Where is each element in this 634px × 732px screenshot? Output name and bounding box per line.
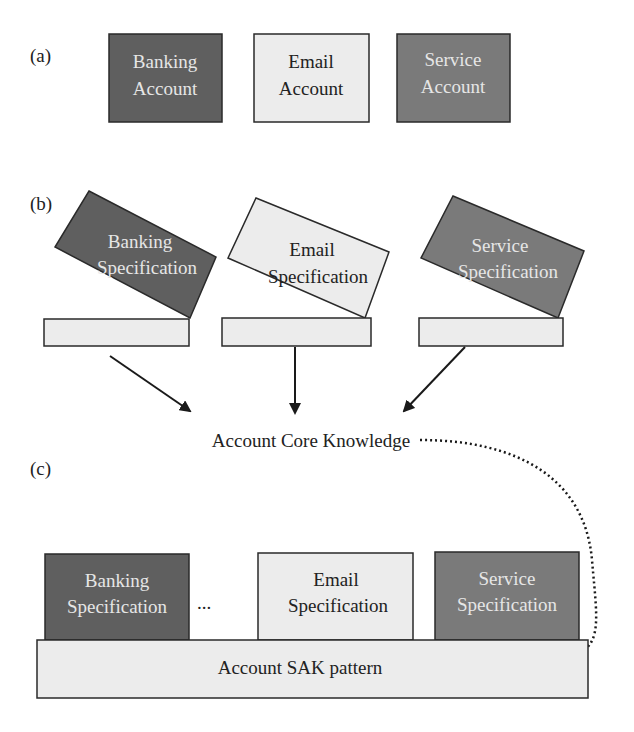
service-spec-c-line2: Specification xyxy=(457,594,558,615)
diagram-canvas: (a) Banking Account Email Account Servic… xyxy=(0,0,634,732)
banking-account-line1: Banking xyxy=(133,51,198,72)
banking-spec-b-line2: Specification xyxy=(97,257,198,278)
banking-base-plate xyxy=(44,319,189,346)
service-account-line2: Account xyxy=(421,76,486,97)
email-spec-c-line2: Specification xyxy=(288,595,389,616)
banking-specification-box: Banking Specification xyxy=(45,554,189,640)
service-account-box: Service Account xyxy=(397,34,510,122)
service-spec-b-line1: Service xyxy=(472,235,529,256)
service-spec-b-line2: Specification xyxy=(458,261,559,282)
banking-account-box: Banking Account xyxy=(109,34,222,122)
account-core-knowledge-label: Account Core Knowledge xyxy=(212,430,410,451)
email-spec-c-line1: Email xyxy=(313,569,358,590)
service-base-plate xyxy=(419,318,563,346)
arrow-service-to-core xyxy=(404,347,465,411)
account-sak-pattern-base: Account SAK pattern xyxy=(37,640,588,698)
email-account-line2: Account xyxy=(279,78,344,99)
email-base-plate xyxy=(222,318,371,346)
service-specification-box: Service Specification xyxy=(435,552,579,640)
panel-b-label: (b) xyxy=(30,193,52,215)
service-specification-tilted-box: Service Specification xyxy=(421,196,584,318)
panel-a-label: (a) xyxy=(30,45,51,67)
service-spec-c-line1: Service xyxy=(479,568,536,589)
email-account-box: Email Account xyxy=(254,34,369,122)
email-specification-tilted-box: Email Specification xyxy=(228,198,389,318)
banking-spec-c-line2: Specification xyxy=(67,596,168,617)
banking-specification-tilted-box: Banking Specification xyxy=(55,191,216,318)
email-spec-b-line2: Specification xyxy=(268,266,369,287)
banking-spec-b-line1: Banking xyxy=(108,231,173,252)
panel-c-label: (c) xyxy=(30,458,51,480)
email-spec-b-line1: Email xyxy=(289,239,334,260)
arrow-banking-to-core xyxy=(110,356,190,411)
service-account-line1: Service xyxy=(425,49,482,70)
email-specification-box: Email Specification xyxy=(258,553,413,640)
banking-account-line2: Account xyxy=(133,78,198,99)
ellipsis: ... xyxy=(197,592,211,613)
banking-spec-c-line1: Banking xyxy=(85,570,150,591)
email-account-line1: Email xyxy=(288,51,333,72)
account-sak-pattern-label: Account SAK pattern xyxy=(218,657,383,678)
